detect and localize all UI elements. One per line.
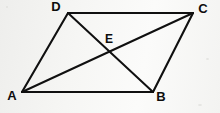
point-label-e: E	[105, 32, 113, 46]
vertex-label-a: A	[7, 88, 17, 103]
figure-canvas: A B C D E	[0, 0, 220, 113]
vertex-label-b: B	[156, 89, 165, 104]
side-bc	[153, 13, 193, 92]
diagonal-ac	[22, 13, 193, 92]
vertex-label-d: D	[51, 0, 60, 14]
side-da	[22, 13, 68, 92]
diagonal-bd	[68, 13, 153, 92]
geometry-figure: A B C D E	[0, 0, 220, 113]
vertex-label-c: C	[198, 1, 208, 16]
